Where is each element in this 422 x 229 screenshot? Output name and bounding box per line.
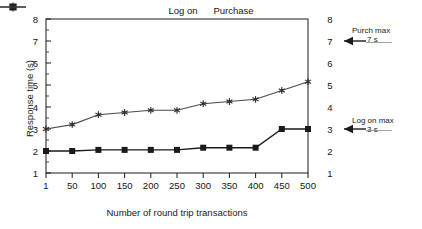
y-tick-label-right: 1 [327,168,332,179]
x-tick-label: 450 [274,180,290,191]
y-tick-label-left: 3 [33,124,38,135]
chart-container: Log on Purchase Response time (s) Number… [0,0,422,229]
data-point-marker-square [43,148,49,154]
data-point-marker-square [69,148,75,154]
data-point-marker-square [122,147,128,153]
y-tick-label-left: 6 [33,58,38,69]
x-tick-label: 250 [169,180,185,191]
annotation-arrow-head [344,125,353,133]
data-point-marker-square [279,126,285,132]
series-line-purchase [46,82,308,129]
data-point-marker-square [200,145,206,151]
x-tick-label: 200 [143,180,159,191]
data-point-marker-square [174,147,180,153]
x-tick-label: 1 [43,180,48,191]
y-tick-label-left: 4 [33,102,38,113]
x-tick-label: 500 [300,180,316,191]
y-tick-label-right: 7 [327,36,332,47]
y-tick-label-left: 1 [33,168,38,179]
data-point-marker-star [305,78,311,85]
x-tick-label: 100 [90,180,106,191]
data-point-marker-square [305,126,311,132]
annotation-arrow-head [344,37,353,45]
x-tick-label: 350 [221,180,237,191]
y-tick-label-left: 8 [33,14,38,25]
y-tick-label-right: 3 [327,124,332,135]
y-tick-label-right: 6 [327,58,332,69]
data-point-marker-square [148,147,154,153]
chart-plot-svg: 1122334455667788150100150200250300350400… [0,0,422,229]
data-point-marker-star [279,87,285,94]
y-tick-label-right: 2 [327,146,332,157]
x-tick-label: 50 [67,180,78,191]
x-tick-label: 150 [117,180,133,191]
y-tick-label-right: 5 [327,80,332,91]
data-point-marker-square [95,147,101,153]
x-tick-label: 300 [195,180,211,191]
data-point-marker-square [253,145,259,151]
y-tick-label-right: 4 [327,102,332,113]
x-tick-label: 400 [248,180,264,191]
y-tick-label-right: 8 [327,14,332,25]
data-point-marker-square [226,145,232,151]
y-tick-label-left: 5 [33,80,38,91]
y-tick-label-left: 7 [33,36,38,47]
y-tick-label-left: 2 [33,146,38,157]
